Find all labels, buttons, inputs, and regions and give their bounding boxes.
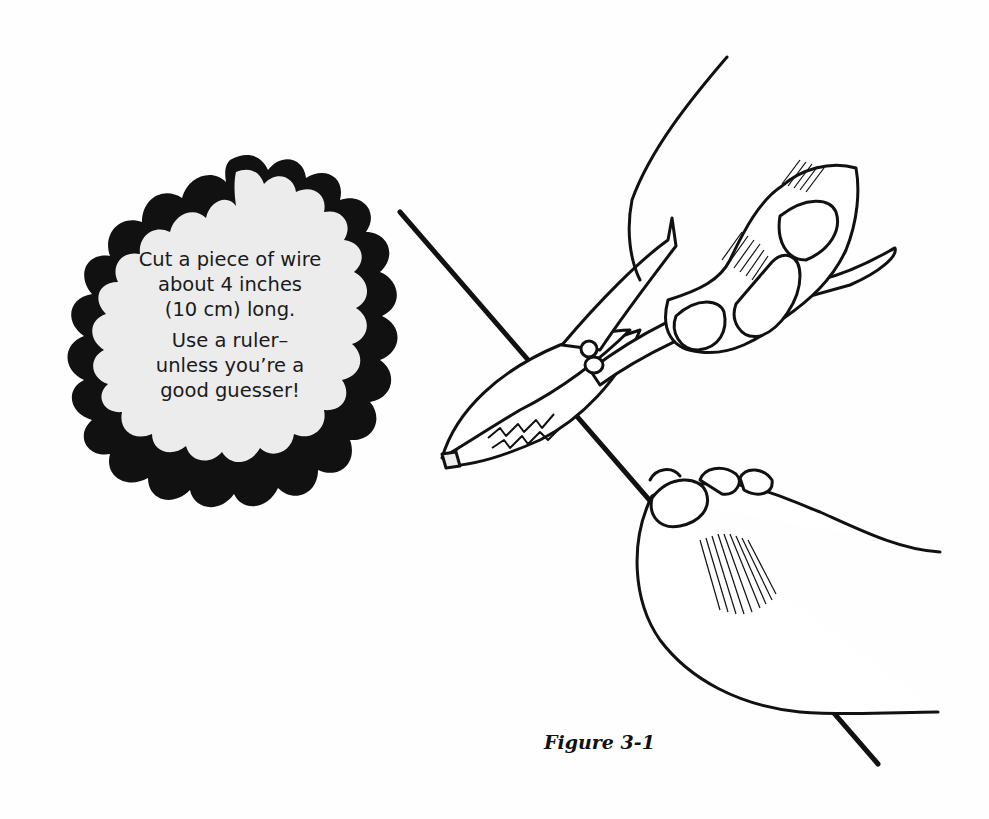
callout-line: Use a ruler– bbox=[95, 328, 365, 353]
callout-text: Cut a piece of wire about 4 inches (10 c… bbox=[95, 247, 365, 403]
callout-line: Cut a piece of wire bbox=[95, 247, 365, 272]
pliers-pivot-top bbox=[581, 341, 597, 357]
right-arm-outline bbox=[629, 57, 727, 280]
callout-line: good guesser! bbox=[95, 378, 365, 403]
pliers-tip bbox=[442, 452, 460, 468]
callout-paragraph-2: Use a ruler– unless you’re a good guesse… bbox=[95, 328, 365, 403]
callout-line: (10 cm) long. bbox=[95, 297, 365, 322]
left-hand-finger-2 bbox=[740, 470, 772, 494]
left-hand bbox=[637, 468, 940, 713]
left-hand-thumb bbox=[651, 480, 707, 527]
callout-line: about 4 inches bbox=[95, 272, 365, 297]
callout-line: unless you’re a bbox=[95, 353, 365, 378]
callout-paragraph-1: Cut a piece of wire about 4 inches (10 c… bbox=[95, 247, 365, 322]
right-hand bbox=[629, 57, 858, 353]
illustration bbox=[0, 0, 989, 819]
left-hand-finger-3 bbox=[650, 470, 680, 480]
document-page: Cut a piece of wire about 4 inches (10 c… bbox=[0, 0, 989, 819]
pliers-pivot-bottom bbox=[585, 357, 603, 373]
figure-caption: Figure 3-1 bbox=[544, 731, 655, 753]
